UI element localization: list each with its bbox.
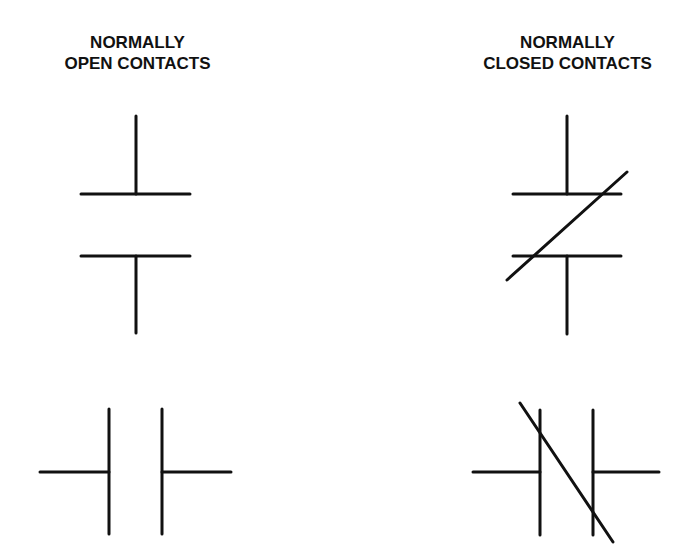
- contact-symbols-diagram: [0, 0, 690, 560]
- normally-closed-contact-vertical-icon: [507, 116, 627, 334]
- normally-closed-contact-horizontal-icon: [473, 403, 659, 542]
- normally-open-contact-horizontal-icon: [40, 409, 231, 534]
- normally-open-contact-vertical-icon: [81, 116, 190, 333]
